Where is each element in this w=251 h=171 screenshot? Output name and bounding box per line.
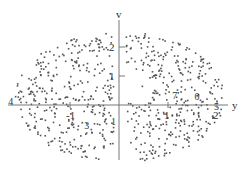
annotation-label: 5 xyxy=(214,101,219,112)
annotation-label: 4 xyxy=(8,96,13,107)
y-tick-label: 2 xyxy=(109,41,115,53)
x-axis-label: y xyxy=(232,99,238,111)
annotation-label: 1 xyxy=(111,116,116,127)
annotation-label: 7 xyxy=(172,90,177,101)
y-tick-label: 1 xyxy=(109,70,115,82)
x-tick-label: 1 xyxy=(164,109,170,121)
y-axis-label: v xyxy=(116,8,122,20)
annotation-label: 0 xyxy=(194,91,199,102)
annotation-label: 3 xyxy=(84,120,89,131)
scatter-plot: -11212 y v 470531 xyxy=(0,0,251,171)
x-tick-label: -1 xyxy=(66,109,75,121)
